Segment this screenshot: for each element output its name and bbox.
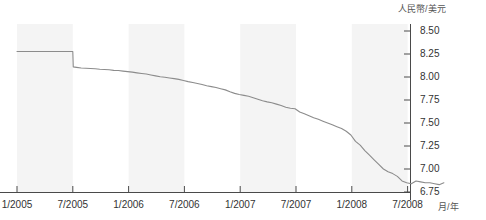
x-axis-tick-label: 7/2005 bbox=[58, 200, 89, 210]
background-band bbox=[352, 24, 408, 192]
x-axis-tick-label: 1/2008 bbox=[337, 200, 368, 210]
y-axis-tick-label: 8.00 bbox=[420, 72, 439, 82]
plot-background-bands bbox=[17, 24, 408, 192]
x-axis-tick-label: 7/2008 bbox=[392, 200, 423, 210]
y-axis-tick-label: 7.75 bbox=[420, 95, 439, 105]
y-axis-tick-label: 8.50 bbox=[420, 26, 439, 36]
background-band bbox=[129, 24, 185, 192]
x-axis-tick-label: 7/2006 bbox=[169, 200, 200, 210]
chart-plot-area bbox=[0, 0, 486, 220]
x-axis-ticks bbox=[17, 186, 408, 193]
y-axis-tick-label: 8.25 bbox=[420, 49, 439, 59]
background-band bbox=[17, 24, 73, 192]
y-axis-tick-label: 7.25 bbox=[420, 141, 439, 151]
y-axis-tick-label: 6.75 bbox=[420, 187, 439, 197]
x-axis-tick-label: 1/2007 bbox=[225, 200, 256, 210]
y-axis-tick-label: 7.50 bbox=[420, 118, 439, 128]
x-axis-tick-label: 1/2005 bbox=[2, 200, 33, 210]
x-axis-tick-label: 1/2006 bbox=[113, 200, 144, 210]
y-axis-title: 人民幣/美元 bbox=[398, 2, 446, 15]
x-axis-tick-label: 7/2007 bbox=[281, 200, 312, 210]
y-axis-tick-label: 7.00 bbox=[420, 164, 439, 174]
exchange-rate-chart: 人民幣/美元 月/年 8.508.258.007.757.507.257.006… bbox=[0, 0, 486, 220]
x-axis-title: 月/年 bbox=[438, 200, 459, 213]
